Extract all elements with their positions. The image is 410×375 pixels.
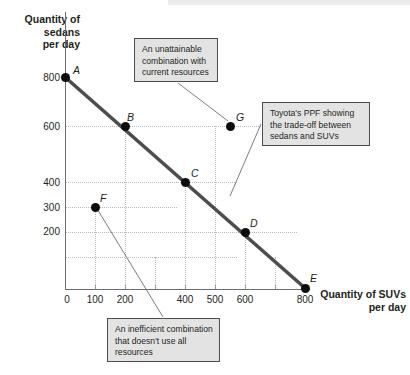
tick-label-x-400: 400 (170, 294, 200, 305)
leader-line-unattainable (178, 83, 228, 121)
annotation-unattainable: An unattainable combination with current… (134, 38, 218, 82)
data-point-label-b: B (127, 111, 134, 123)
data-point-d[interactable] (241, 228, 250, 237)
tick-label-x-500: 500 (200, 294, 230, 305)
gridline-x-100 (95, 207, 96, 289)
gridline-y-200 (66, 232, 297, 233)
annotation-inefficient: An inefficient combination that doesn't … (107, 318, 220, 362)
tick-mark-x-400 (185, 285, 186, 289)
data-point-label-e: E (310, 272, 317, 284)
tick-mark-x-500 (215, 285, 216, 289)
tick-mark-x-100 (95, 285, 96, 289)
tick-label-y-800: 800 (26, 72, 60, 83)
tick-label-y-400: 400 (26, 177, 60, 188)
leader-line-ppf-description (230, 124, 261, 196)
annotation-ppf-description: Toyota's PPF showing the trade-off betwe… (262, 102, 370, 146)
gridline-y-100 (66, 257, 237, 258)
gridline-x-200 (125, 126, 126, 289)
tick-mark-x-300 (155, 285, 156, 289)
tick-label-x-800: 800 (290, 294, 320, 305)
gridline-y-400 (66, 182, 237, 183)
gridline-x-500 (215, 126, 216, 289)
gridline-x-400 (185, 182, 186, 289)
tick-label-x-100: 100 (80, 294, 110, 305)
tick-label-y-300: 300 (26, 202, 60, 213)
tick-mark-x-700 (275, 285, 276, 289)
gridline-y-300 (66, 207, 177, 208)
data-point-g[interactable] (226, 122, 235, 131)
tick-mark-x-200 (125, 285, 126, 289)
data-point-e[interactable] (301, 284, 310, 293)
x-axis-line (65, 289, 310, 290)
tick-label-x-0: 0 (52, 294, 82, 305)
tick-label-x-600: 600 (230, 294, 260, 305)
x-axis-title: Quantity of SUVs per day (306, 288, 406, 313)
tick-mark-x-600 (245, 285, 246, 289)
tick-label-y-200: 200 (26, 226, 60, 237)
y-axis-title: Quantity of sedans per day (8, 13, 80, 51)
data-point-f[interactable] (91, 203, 100, 212)
ppf-chart-figure: Quantity of sedans per day Quantity of S… (0, 0, 410, 375)
data-point-label-g: G (236, 111, 244, 123)
tick-label-x-200: 200 (110, 294, 140, 305)
top-grey-band (168, 0, 410, 5)
data-point-b[interactable] (121, 122, 130, 131)
tick-label-y-600: 600 (26, 121, 60, 132)
gridline-x-600 (245, 232, 246, 289)
y-axis-line (65, 12, 66, 290)
data-point-label-c: C (191, 167, 199, 179)
data-point-label-d: D (250, 217, 258, 229)
data-point-label-f: F (100, 192, 106, 204)
data-point-c[interactable] (181, 178, 190, 187)
data-point-label-a: A (73, 64, 80, 76)
data-point-a[interactable] (61, 73, 70, 82)
